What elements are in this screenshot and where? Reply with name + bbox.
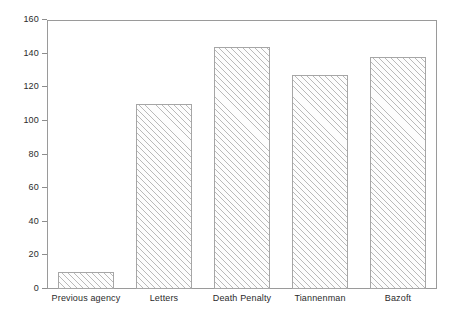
- y-axis-tick-label: 80: [29, 149, 39, 160]
- x-axis-label: Death Penalty: [203, 292, 281, 304]
- bar[interactable]: [370, 57, 426, 289]
- bar[interactable]: [58, 272, 114, 289]
- y-axis-tick-label: 40: [29, 216, 39, 227]
- y-axis-tick-label: 120: [23, 81, 39, 92]
- x-axis-label: Bazoft: [359, 292, 437, 304]
- bar[interactable]: [292, 75, 348, 289]
- y-axis-tick-label: 140: [23, 48, 39, 59]
- y-axis: 020406080100120140160: [0, 0, 47, 315]
- x-axis-label: Tiannenman: [281, 292, 359, 304]
- y-axis-tick-label: 100: [23, 115, 39, 126]
- y-axis-tick-label: 20: [29, 249, 39, 260]
- y-axis-tick-label: 0: [34, 283, 39, 294]
- y-axis-tick-label: 160: [23, 14, 39, 25]
- bar[interactable]: [136, 104, 192, 289]
- bar[interactable]: [214, 47, 270, 289]
- x-axis-label: Previous agency: [47, 292, 125, 304]
- bar-chart: 020406080100120140160 Previous agencyLet…: [0, 0, 454, 315]
- x-axis-labels: Previous agencyLettersDeath PenaltyTiann…: [47, 292, 437, 312]
- y-axis-tick-label: 60: [29, 182, 39, 193]
- x-axis-label: Letters: [125, 292, 203, 304]
- bars-layer: [47, 20, 437, 289]
